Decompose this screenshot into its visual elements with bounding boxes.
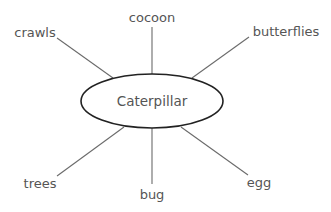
node-label-trees: trees — [24, 176, 57, 191]
node-label-cocoon: cocoon — [129, 10, 175, 25]
spoke-egg — [181, 127, 248, 175]
spider-diagram: Caterpillar cocoon crawls butterflies tr… — [0, 0, 331, 212]
spoke-trees — [57, 127, 124, 176]
center-label: Caterpillar — [117, 93, 188, 109]
node-label-egg: egg — [247, 175, 272, 190]
node-label-butterflies: butterflies — [253, 24, 320, 39]
spoke-butterflies — [192, 37, 249, 78]
node-label-crawls: crawls — [14, 25, 56, 40]
spoke-crawls — [57, 38, 113, 78]
node-label-bug: bug — [140, 187, 165, 202]
